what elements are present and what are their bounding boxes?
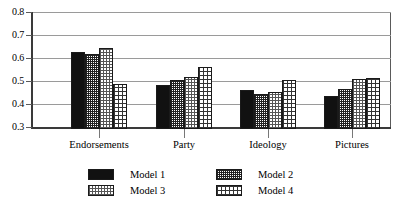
y-axis-label-0-8: 0.8 bbox=[0, 7, 24, 17]
bar-party-model-3 bbox=[184, 77, 198, 129]
bar-ideology-model-1 bbox=[240, 90, 254, 129]
legend-label-model-1: Model 1 bbox=[130, 168, 165, 181]
bar-ideology-model-3 bbox=[268, 92, 282, 129]
bar-chart-figure: 0.8 0.7 0.6 0.5 0.4 0.3 Endorsements Par… bbox=[0, 0, 398, 204]
category-tick-endorsements bbox=[99, 129, 100, 138]
category-label-party: Party bbox=[144, 139, 224, 151]
y-axis-label-0-6: 0.6 bbox=[0, 53, 24, 63]
category-tick-party bbox=[184, 129, 185, 138]
category-label-pictures: Pictures bbox=[312, 139, 392, 151]
legend-label-model-3: Model 3 bbox=[130, 184, 165, 197]
legend-swatch-model-4-icon bbox=[216, 185, 242, 196]
bar-ideology-model-2 bbox=[254, 94, 268, 129]
y-axis-label-0-5: 0.5 bbox=[0, 76, 24, 86]
bar-party-model-1 bbox=[156, 85, 170, 129]
bars-layer bbox=[31, 12, 391, 129]
legend-label-model-2: Model 2 bbox=[258, 168, 293, 181]
legend-swatch-model-1-icon bbox=[88, 169, 114, 180]
legend-label-model-4: Model 4 bbox=[258, 184, 293, 197]
bar-ideology-model-4 bbox=[282, 80, 296, 129]
bar-endorsements-model-2 bbox=[85, 54, 99, 129]
bar-endorsements-model-3 bbox=[99, 48, 113, 129]
bar-party-model-4 bbox=[198, 67, 212, 129]
category-tick-pictures bbox=[352, 129, 353, 138]
bar-endorsements-model-1 bbox=[71, 52, 85, 129]
category-label-ideology: Ideology bbox=[228, 139, 308, 151]
bar-pictures-model-2 bbox=[338, 89, 352, 129]
bar-party-model-2 bbox=[170, 80, 184, 129]
chart-legend: Model 1 Model 3 Model 2 Model 4 bbox=[88, 168, 338, 200]
bar-pictures-model-1 bbox=[324, 96, 338, 129]
bar-endorsements-model-4 bbox=[113, 84, 127, 129]
bar-pictures-model-3 bbox=[352, 79, 366, 129]
bar-pictures-model-4 bbox=[366, 78, 380, 129]
legend-swatch-model-3-icon bbox=[88, 185, 114, 196]
y-axis-label-0-7: 0.7 bbox=[0, 30, 24, 40]
category-tick-ideology bbox=[268, 129, 269, 138]
category-label-endorsements: Endorsements bbox=[39, 139, 159, 151]
y-axis-label-0-4: 0.4 bbox=[0, 99, 24, 109]
legend-swatch-model-2-icon bbox=[216, 169, 242, 180]
y-axis-label-0-3: 0.3 bbox=[0, 122, 24, 132]
